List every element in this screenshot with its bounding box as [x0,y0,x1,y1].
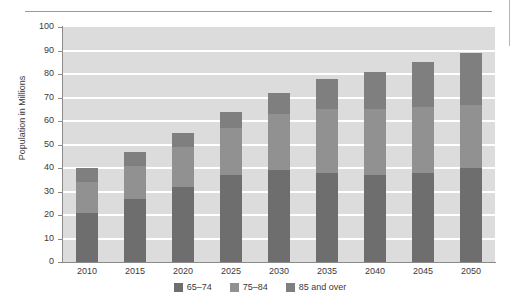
y-tick-label-text: 10 [26,234,54,243]
y-axis-tick [58,262,62,263]
y-tick-label-text: 70 [26,93,54,102]
y-tick-label-text: 90 [26,46,54,55]
bar-segment [76,182,98,213]
y-tick-label-text: 40 [26,163,54,172]
y-tick-label: 60 [26,116,54,125]
y-tick-label: 30 [26,187,54,196]
y-axis-tick [58,168,62,169]
y-axis-tick [58,51,62,52]
y-tick-label: 10 [26,234,54,243]
y-axis-tick [58,121,62,122]
bar-2045 [412,27,434,262]
y-tick-label: 50 [26,140,54,149]
bar-segment [172,133,194,147]
bar-segment [268,114,290,170]
y-tick-label-text: 20 [26,210,54,219]
y-tick-label-text: 0 [26,257,54,266]
bar-2030 [268,27,290,262]
legend-swatch-icon [230,283,239,292]
bar-segment [172,187,194,262]
bar-segment [364,72,386,110]
legend-item: 75–84 [230,282,268,292]
y-tick-label: 0 [26,257,54,266]
bar-2025 [220,27,242,262]
chart-legend: 65–7475–8485 and over [0,282,520,292]
y-axis-tick [58,239,62,240]
bar-segment [124,152,146,166]
top-rule-divider [25,11,492,12]
bar-segment [316,79,338,110]
y-tick-label: 70 [26,93,54,102]
bar-segment [460,105,482,168]
x-axis-line [62,262,496,263]
y-tick-label: 90 [26,46,54,55]
y-tick-label-text: 30 [26,187,54,196]
bars-layer [63,27,495,262]
bar-segment [220,175,242,262]
bar-2040 [364,27,386,262]
y-axis-tick [58,98,62,99]
y-tick-label-text: 80 [26,69,54,78]
bar-segment [76,213,98,262]
y-tick-label-text: 60 [26,116,54,125]
bar-segment [364,175,386,262]
y-tick-label-text: 50 [26,140,54,149]
bar-segment [220,112,242,128]
bar-segment [220,128,242,175]
bar-segment [364,109,386,175]
stacked-bar-chart-figure: 1009080706050403020100 Population in Mil… [0,0,520,307]
bar-segment [268,93,290,114]
legend-item: 85 and over [286,282,347,292]
y-axis-tick [58,215,62,216]
bar-segment [412,173,434,262]
legend-label: 65–74 [187,282,212,292]
y-tick-label-text: 100 [26,22,54,31]
bar-2010 [76,27,98,262]
bar-2015 [124,27,146,262]
bar-segment [412,107,434,173]
legend-item: 65–74 [174,282,212,292]
legend-label: 75–84 [243,282,268,292]
bar-segment [412,62,434,107]
bar-segment [268,170,290,262]
bar-segment [124,199,146,262]
y-axis-tick [58,145,62,146]
y-tick-label: 20 [26,210,54,219]
bar-segment [124,166,146,199]
bar-segment [316,109,338,172]
y-axis-title: Population in Millions [17,48,27,188]
bar-2050 [460,27,482,262]
legend-swatch-icon [286,283,295,292]
bar-segment [460,168,482,262]
y-tick-label: 100 [26,22,54,31]
y-tick-label: 80 [26,69,54,78]
bar-segment [172,147,194,187]
y-axis-tick [58,27,62,28]
y-axis-tick [58,192,62,193]
x-tick-label-2050: 2050 [441,266,501,276]
bar-segment [460,53,482,105]
legend-label: 85 and over [299,282,347,292]
bar-2035 [316,27,338,262]
legend-swatch-icon [174,283,183,292]
y-axis-tick [58,74,62,75]
crop-mark-icon [509,0,510,46]
y-tick-label: 40 [26,163,54,172]
bar-2020 [172,27,194,262]
bar-segment [316,173,338,262]
bar-segment [76,168,98,182]
